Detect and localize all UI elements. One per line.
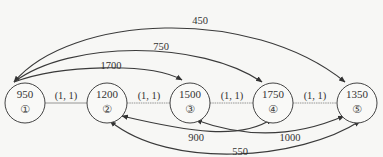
edge-label-2-3: (1, 1)	[138, 90, 161, 102]
node-3-id: ③	[185, 103, 195, 116]
node-4-value: 1750	[262, 88, 285, 100]
arc-1-3	[14, 68, 182, 82]
edge-label-1-2: (1, 1)	[55, 90, 78, 102]
node-4-id: ④	[268, 103, 278, 116]
arc-label-3-5: 1000	[280, 132, 301, 143]
edge-label-3-4: (1, 1)	[221, 90, 244, 102]
network-diagram: (1, 1) (1, 1) (1, 1) (1, 1) 450 750 1700…	[0, 0, 383, 157]
node-1-value: 950	[17, 88, 34, 100]
arc-1-5	[14, 28, 345, 82]
node-2-id: ②	[102, 103, 112, 116]
arc-label-2-5: 550	[232, 146, 248, 157]
node-5-id: ⑤	[352, 103, 362, 116]
arc-label-4-2: 900	[188, 132, 204, 143]
node-5-value: 1350	[346, 88, 369, 100]
node-1-id: ①	[20, 103, 30, 116]
edge-label-4-5: (1, 1)	[304, 90, 327, 102]
arc-1-4	[14, 51, 262, 83]
arc-label-1-5: 450	[192, 15, 208, 26]
arc-label-1-4: 750	[153, 41, 169, 52]
node-3-value: 1500	[179, 88, 202, 100]
arc-label-1-3: 1700	[101, 60, 122, 71]
node-2-value: 1200	[96, 88, 119, 100]
